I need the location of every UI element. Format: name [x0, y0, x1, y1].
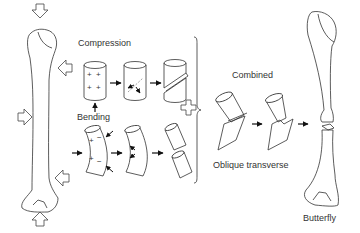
svg-text:+: +: [87, 83, 92, 92]
load-arrow-right-icon: [58, 60, 72, 76]
label-butterfly: Butterfly: [303, 213, 336, 223]
load-arrow-top-icon: [32, 4, 48, 18]
svg-text:+: +: [89, 136, 94, 145]
label-combined: Combined: [232, 70, 273, 80]
load-arrow-lowright-icon: [55, 170, 69, 186]
compression-cylinder-shear: [124, 62, 146, 101]
compression-cylinder-fractured: [164, 60, 188, 103]
plus-sign-icon: [181, 100, 196, 115]
label-compression: Compression: [78, 38, 131, 48]
label-bending: Bending: [77, 112, 110, 122]
right-femur-butterfly-fracture: [304, 11, 338, 206]
svg-text:+: +: [87, 70, 92, 79]
svg-text:+: +: [96, 70, 101, 79]
label-oblique-transverse: Oblique transverse: [213, 160, 289, 170]
compression-cylinder-intact: ++ ++: [84, 62, 106, 101]
svg-text:+: +: [89, 154, 94, 163]
svg-text:+: +: [96, 83, 101, 92]
combined-fracture-step2: [264, 92, 293, 150]
bending-beam-fractured: [164, 122, 192, 178]
svg-text:−: −: [97, 157, 102, 166]
load-arrow-left-icon: [18, 109, 32, 125]
bending-beam-stress: [124, 124, 147, 176]
combined-fracture-step1: [214, 90, 247, 150]
fracture-mechanism-diagram: ++ ++ +− +−: [0, 0, 360, 233]
load-arrow-bottom-icon: [32, 212, 48, 226]
svg-text:−: −: [97, 133, 102, 142]
bending-beam-intact: +− +−: [84, 124, 107, 176]
